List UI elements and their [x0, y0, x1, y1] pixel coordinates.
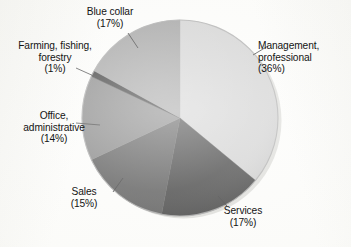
pie-label-farming-line1: Farming, fishing,: [0, 40, 110, 52]
pie-label-office-pct: (14%): [2, 133, 106, 145]
pie-label-sales: Sales (15%): [50, 186, 118, 209]
pie-label-management-pct: (36%): [258, 63, 350, 75]
pie-label-office: Office, administrative (14%): [2, 110, 106, 145]
pie-label-bluecollar: Blue collar (17%): [62, 6, 158, 29]
pie-label-management-line1: Management,: [258, 40, 350, 52]
pie-label-farming-line2: forestry: [0, 52, 110, 64]
pie-label-bluecollar-line1: Blue collar: [62, 6, 158, 18]
pie-label-farming-pct: (1%): [0, 63, 110, 75]
chart-canvas: Management, professional (36%) Services …: [0, 0, 351, 247]
pie-label-management-line2: professional: [258, 52, 350, 64]
pie-label-services: Services (17%): [196, 205, 290, 228]
pie-label-management: Management, professional (36%): [258, 40, 350, 75]
pie-label-services-line1: Services: [196, 205, 290, 217]
pie-label-office-line1: Office,: [2, 110, 106, 122]
pie-label-sales-line1: Sales: [50, 186, 118, 198]
pie-label-office-line2: administrative: [2, 122, 106, 134]
pie-label-farming: Farming, fishing, forestry (1%): [0, 40, 110, 75]
pie-label-services-pct: (17%): [196, 217, 290, 229]
pie-label-sales-pct: (15%): [50, 198, 118, 210]
pie-label-bluecollar-pct: (17%): [62, 18, 158, 30]
